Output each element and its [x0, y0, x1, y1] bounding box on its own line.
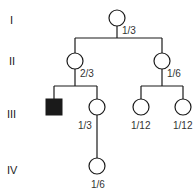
probability-label-iii2: 1/3	[78, 120, 92, 131]
female-unaffected-iii3	[133, 99, 149, 115]
generation-label-2: II	[9, 55, 15, 67]
probability-label-iv1: 1/6	[91, 179, 105, 190]
female-unaffected-iv1	[89, 158, 105, 174]
probability-label-iii3: 1/12	[131, 120, 151, 131]
female-unaffected-iii2	[89, 99, 105, 115]
female-unaffected-i1	[109, 10, 125, 26]
female-unaffected-iii4	[175, 99, 191, 115]
female-unaffected-ii2	[154, 53, 170, 69]
female-unaffected-ii1	[67, 53, 83, 69]
male-affected-iii1	[46, 99, 62, 115]
generation-label-3: III	[7, 108, 16, 120]
probability-label-ii2: 1/6	[167, 68, 181, 79]
probability-label-ii1: 2/3	[80, 68, 94, 79]
generation-label-4: IV	[7, 164, 18, 176]
pedigree-chart: I II III IV 1/3 2/3 1/6 1/3 1/12 1/12 1/…	[0, 0, 196, 193]
probability-label-iii4: 1/12	[173, 120, 193, 131]
generation-label-1: I	[10, 14, 13, 26]
probability-label-i1: 1/3	[122, 25, 136, 36]
